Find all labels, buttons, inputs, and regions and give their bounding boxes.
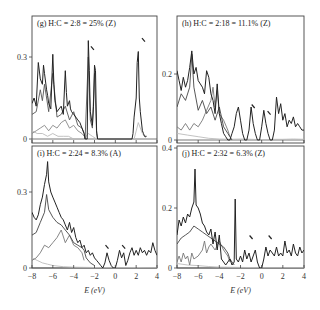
x-axis-label: E (eV) (83, 286, 105, 295)
dos-figure: 00.3(g) H:C = 2:8 = 25% (Z)00.2(h) H:C =… (0, 0, 320, 310)
y-tick-label: 0.3 (17, 188, 27, 197)
series-c-s (177, 87, 230, 137)
fermi-marker (268, 111, 271, 115)
panel-title: (j) H:C = 2:32 = 6.3% (Z) (182, 149, 265, 158)
x-tick-label: 4 (155, 272, 159, 281)
y-tick-label: 0.4 (162, 144, 172, 153)
fermi-marker (122, 245, 125, 249)
y-tick-label: 0 (168, 264, 172, 273)
panel-title: (i) H:C = 2:24 = 8.3% (A) (37, 149, 121, 158)
x-tick-label: −2 (90, 272, 99, 281)
fermi-marker (91, 46, 94, 50)
x-tick-label: −6 (49, 272, 58, 281)
panel-j: 00.20.4−8−6−4−2024(j) H:C = 2:32 = 6.3% … (162, 144, 306, 295)
y-tick-label: 0.3 (17, 53, 27, 62)
x-tick-label: −4 (69, 272, 78, 281)
x-tick-label: −4 (215, 272, 224, 281)
x-tick-label: −8 (173, 272, 182, 281)
plot-frame (32, 146, 157, 268)
y-tick-label: 0 (23, 135, 27, 144)
x-tick-label: −2 (236, 272, 245, 281)
plot-frame (177, 16, 304, 143)
x-axis-label: E (eV) (229, 286, 251, 295)
panel-title: (h) H:C = 2:18 = 11.1% (Z) (182, 19, 271, 28)
x-tick-label: −6 (194, 272, 203, 281)
series-c-s (177, 241, 230, 265)
fermi-marker (250, 236, 253, 240)
x-tick-label: 2 (134, 272, 138, 281)
y-tick-label: 0 (23, 264, 27, 273)
x-tick-label: 0 (260, 272, 264, 281)
series-total (177, 51, 304, 140)
panel-g: 00.3(g) H:C = 2:8 = 25% (Z) (17, 16, 157, 144)
series-c-s (32, 230, 84, 260)
y-tick-label: 0.2 (162, 204, 172, 213)
x-tick-label: 2 (281, 272, 285, 281)
x-tick-label: 0 (113, 272, 117, 281)
x-tick-label: −8 (28, 272, 37, 281)
fermi-marker (252, 105, 255, 109)
fermi-marker (142, 38, 145, 42)
plot-frame (177, 146, 304, 268)
fermi-marker (269, 236, 272, 240)
panel-i: 00.3−8−6−4−2024(i) H:C = 2:24 = 8.3% (A)… (17, 146, 159, 295)
series-h-s (177, 133, 304, 139)
series-c-p (32, 195, 95, 266)
panel-title: (g) H:C = 2:8 = 25% (Z) (37, 19, 116, 28)
y-tick-label: 0.2 (162, 70, 172, 79)
x-tick-label: 4 (302, 272, 306, 281)
series-c-p (177, 54, 232, 140)
series-total (32, 41, 147, 139)
panel-h: 00.2(h) H:C = 2:18 = 11.1% (Z) (162, 16, 304, 145)
fermi-marker (106, 245, 109, 249)
series-total (32, 162, 157, 268)
series-total (177, 169, 304, 268)
